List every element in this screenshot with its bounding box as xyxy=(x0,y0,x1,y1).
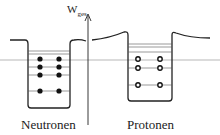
proton-particles xyxy=(136,57,162,87)
neutron-levels xyxy=(28,51,70,91)
neutron-well xyxy=(10,40,86,108)
potential-well-diagram xyxy=(0,0,220,135)
energy-axis-label: Wges xyxy=(67,4,87,18)
proton-well xyxy=(92,32,210,101)
proton-label: Protonen xyxy=(127,118,174,131)
proton-levels xyxy=(128,44,172,85)
neutron-label: Neutronen xyxy=(21,118,76,131)
